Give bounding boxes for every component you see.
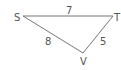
edge-length-s-t: 7 bbox=[66, 5, 72, 16]
edge-s-v bbox=[23, 16, 83, 53]
vertex-label-v: V bbox=[80, 56, 87, 67]
edge-t-v bbox=[83, 16, 113, 53]
vertex-label-t: T bbox=[113, 12, 121, 23]
vertex-label-s: S bbox=[14, 12, 20, 23]
edge-length-t-v: 5 bbox=[100, 36, 106, 47]
triangle-diagram: S T V 7 8 5 bbox=[0, 0, 121, 70]
edge-length-s-v: 8 bbox=[45, 36, 51, 47]
